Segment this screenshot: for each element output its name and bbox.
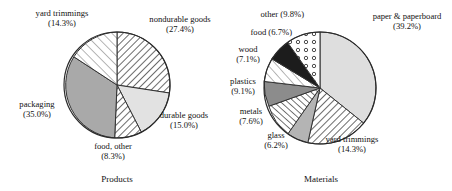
label-paper-paperboard: paper & paperboard (39.2%) (360, 11, 452, 31)
label-durable-goods-value: (15.0%) (142, 120, 226, 130)
label-other: other (9.8%) (222, 9, 304, 19)
label-plastics: plastics (9.1%) (214, 76, 272, 96)
two-pie-chart-figure: yard trimmings (14.3%) nondurable goods … (0, 0, 452, 191)
label-nondurable-goods-name: nondurable goods (149, 14, 210, 24)
label-plastics-name: plastics (230, 76, 256, 86)
label-food: food (6.7%) (208, 27, 292, 37)
label-other-text: other (9.8%) (261, 9, 304, 19)
label-durable-goods: durable goods (15.0%) (142, 110, 226, 130)
label-metals-value: (7.6%) (224, 116, 278, 126)
label-yard-trimmings-value: (14.3%) (308, 144, 396, 154)
label-durable-goods-name: durable goods (160, 110, 208, 120)
label-yard-trimmings-name: yard trimmings (36, 8, 89, 18)
materials-panel: other (9.8%) food (6.7%) wood (7.1%) pla… (226, 0, 452, 191)
label-yard-trimmings: yard trimmings (14.3%) (308, 134, 396, 154)
materials-pie-chart (262, 30, 378, 146)
label-glass: glass (6.2%) (252, 130, 300, 150)
materials-caption: Materials (266, 174, 376, 184)
label-food-other-name: food, other (94, 141, 132, 151)
label-wood: wood (7.1%) (220, 44, 276, 64)
label-packaging-value: (35.0%) (4, 109, 70, 119)
label-food-text: food (6.7%) (250, 27, 292, 37)
label-glass-name: glass (267, 130, 284, 140)
products-caption: Products (62, 174, 172, 184)
label-yard-trimmings: yard trimmings (14.3%) (14, 8, 110, 28)
products-panel: yard trimmings (14.3%) nondurable goods … (0, 0, 226, 191)
label-metals: metals (7.6%) (224, 106, 278, 126)
pie-slice-nondurable-goods (117, 32, 170, 93)
label-food-other-value: (8.3%) (76, 151, 150, 161)
label-packaging: packaging (35.0%) (4, 99, 70, 119)
label-wood-name: wood (238, 44, 257, 54)
label-yard-trimmings-name: yard trimmings (326, 134, 379, 144)
label-paper-paperboard-value: (39.2%) (360, 21, 452, 31)
label-metals-name: metals (240, 106, 262, 116)
label-paper-paperboard-name: paper & paperboard (373, 11, 442, 21)
label-wood-value: (7.1%) (220, 54, 276, 64)
materials-pie-svg (262, 30, 378, 146)
label-glass-value: (6.2%) (252, 140, 300, 150)
label-packaging-name: packaging (19, 99, 54, 109)
label-yard-trimmings-value: (14.3%) (14, 18, 110, 28)
label-plastics-value: (9.1%) (214, 86, 272, 96)
label-food-other: food, other (8.3%) (76, 141, 150, 161)
